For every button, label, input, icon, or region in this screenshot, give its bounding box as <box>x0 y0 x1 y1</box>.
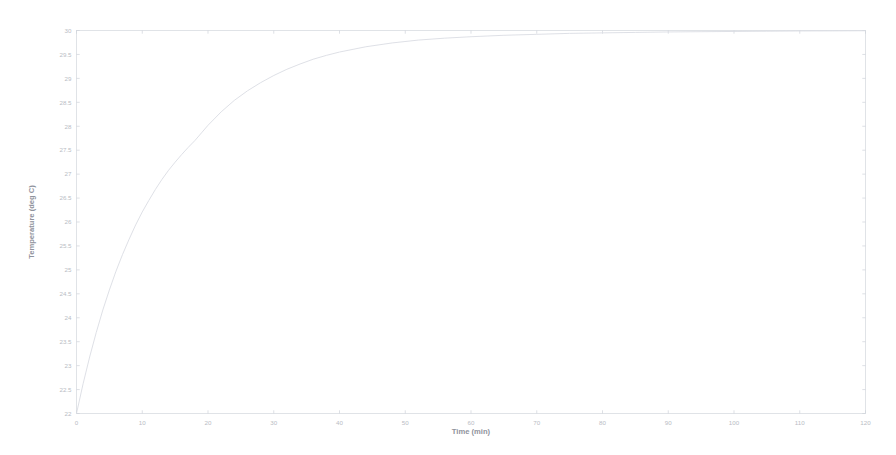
x-tick-label: 120 <box>860 419 871 426</box>
y-tick-label: 30 <box>65 27 72 34</box>
y-tick-label: 22.5 <box>59 386 72 393</box>
x-tick-label: 110 <box>795 419 805 426</box>
x-tick-label: 60 <box>468 419 475 426</box>
y-tick-label: 27.5 <box>59 146 72 153</box>
y-tick-label: 24.5 <box>59 290 72 297</box>
x-tick-label: 100 <box>729 419 740 426</box>
temperature-vs-time-chart: 0102030405060708090100110120 2222.52323.… <box>0 0 896 455</box>
x-tick-label: 10 <box>139 419 146 426</box>
x-axis-ticks-bottom <box>77 410 866 413</box>
y-tick-label: 24 <box>65 314 72 321</box>
y-axis-title: Temperature (deg C) <box>27 185 36 259</box>
x-tick-label: 80 <box>599 419 606 426</box>
x-axis-title: Time (min) <box>452 427 491 436</box>
y-tick-label: 22 <box>65 410 72 417</box>
temperature-curve <box>77 31 866 414</box>
y-tick-label: 29 <box>65 75 72 82</box>
y-tick-label: 26.5 <box>59 194 72 201</box>
y-tick-label: 28 <box>65 123 72 130</box>
x-tick-label: 30 <box>270 419 277 426</box>
x-tick-label: 90 <box>665 419 672 426</box>
y-tick-label: 27 <box>65 170 72 177</box>
y-tick-label: 23 <box>65 362 72 369</box>
y-tick-label: 25.5 <box>59 242 72 249</box>
x-tick-label: 20 <box>205 419 212 426</box>
x-tick-label: 50 <box>402 419 409 426</box>
y-axis-ticks-right <box>862 31 865 414</box>
x-tick-label: 40 <box>336 419 343 426</box>
x-tick-label: 70 <box>533 419 540 426</box>
x-tick-label: 0 <box>75 419 79 426</box>
y-tick-label: 29.5 <box>59 51 72 58</box>
y-axis-ticks-left <box>77 31 80 414</box>
figure-canvas: 0102030405060708090100110120 2222.52323.… <box>0 0 896 455</box>
y-tick-label: 26 <box>65 218 72 225</box>
y-tick-label: 23.5 <box>59 338 72 345</box>
y-tick-label: 28.5 <box>59 99 72 106</box>
y-tick-label: 25 <box>65 266 72 273</box>
plot-frame <box>77 31 866 414</box>
y-axis-tick-labels: 2222.52323.52424.52525.52626.52727.52828… <box>59 27 72 417</box>
x-axis-tick-labels: 0102030405060708090100110120 <box>75 419 871 426</box>
